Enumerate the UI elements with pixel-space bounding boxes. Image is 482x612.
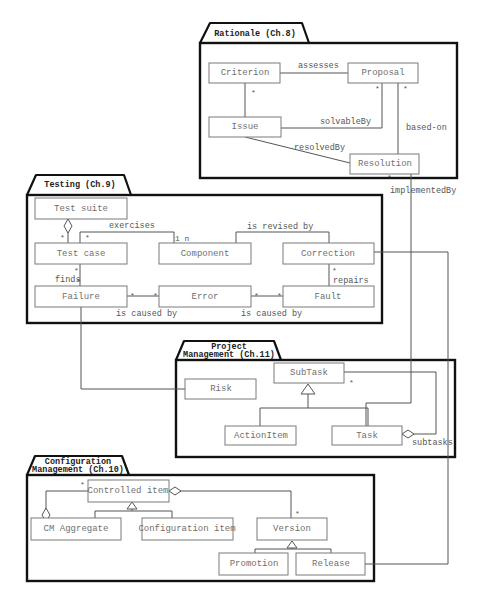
multiplicity: *: [74, 266, 79, 275]
class-name: Failure: [62, 292, 100, 302]
class-risk[interactable]: Risk: [185, 379, 256, 399]
class-name: Task: [356, 431, 378, 441]
generalization-subtask-branch: [260, 408, 368, 426]
multiplicity: *: [349, 378, 354, 387]
class-name: Error: [191, 292, 218, 302]
generalization-version-branch: [255, 549, 331, 553]
label-solvable-by: solvableBy: [320, 117, 371, 127]
generalization-triangle-icon: [287, 541, 297, 548]
class-name: ActionItem: [234, 431, 288, 441]
class-configuration-item[interactable]: Configuration item: [138, 518, 235, 540]
multiplicity: *: [295, 509, 300, 518]
class-name: Component: [181, 249, 230, 259]
label-exercises: exercises: [109, 221, 155, 231]
class-name: Criterion: [221, 68, 270, 78]
class-release[interactable]: Release: [296, 553, 365, 575]
aggregation-diamond-icon: [402, 430, 414, 438]
class-criterion[interactable]: Criterion: [209, 63, 280, 83]
class-task[interactable]: Task: [332, 426, 402, 445]
aggregation-diamond-icon: [169, 487, 181, 495]
multiplicity: *: [403, 84, 408, 93]
aggregation-diamond-icon: [64, 219, 72, 233]
generalization-triangle-icon: [301, 384, 315, 394]
label-subtasks: subtasks: [412, 438, 453, 448]
class-controlled-item[interactable]: Controlled item: [87, 480, 169, 502]
label-is-caused-by: is caused by: [116, 309, 177, 319]
uml-class-diagram: Rationale (Ch.8) Testing (Ch.9) Project …: [0, 0, 482, 612]
class-error[interactable]: Error: [159, 286, 251, 307]
package-title-line2: Management (Ch.10): [32, 465, 124, 475]
label-assesses: assesses: [298, 61, 339, 71]
class-fault[interactable]: Fault: [283, 286, 374, 307]
label-is-revised-by: is revised by: [247, 222, 313, 232]
class-name: Proposal: [361, 68, 404, 78]
class-name: Test suite: [54, 204, 108, 214]
class-resolution[interactable]: Resolution: [350, 154, 419, 174]
multiplicity: *: [387, 173, 392, 182]
generalization-controlled-branch: [95, 511, 172, 518]
class-name: Risk: [210, 384, 232, 394]
multiplicity: *: [130, 291, 135, 300]
label-implemented-by: implementedBy: [390, 186, 456, 196]
package-title: Rationale (Ch.8): [214, 29, 296, 39]
class-name: Correction: [301, 249, 355, 259]
class-name: Fault: [314, 292, 341, 302]
package-title: Testing (Ch.9): [44, 180, 115, 190]
class-test-suite[interactable]: Test suite: [35, 198, 127, 219]
class-name: Configuration item: [138, 524, 235, 534]
multiplicity: *: [153, 291, 158, 300]
assoc-aggregate-controlled: [46, 491, 88, 509]
class-cm-aggregate[interactable]: CM Aggregate: [31, 518, 121, 540]
class-test-case[interactable]: Test case: [35, 243, 127, 264]
class-name: CM Aggregate: [44, 524, 109, 534]
multiplicity: *: [254, 291, 259, 300]
multiplicity: *: [277, 291, 282, 300]
class-name: Version: [273, 524, 311, 534]
class-failure[interactable]: Failure: [35, 286, 127, 307]
class-subtask[interactable]: SubTask: [274, 363, 344, 383]
multiplicity: *: [332, 266, 337, 275]
multiplicity: *: [251, 88, 256, 97]
class-name: Resolution: [358, 159, 412, 169]
class-component[interactable]: Component: [159, 243, 251, 264]
class-name: Release: [312, 559, 350, 569]
class-name: Test case: [57, 249, 106, 259]
label-repairs: repairs: [333, 276, 369, 286]
multiplicity: *: [375, 84, 380, 93]
class-name: Issue: [231, 122, 258, 132]
class-issue[interactable]: Issue: [209, 117, 281, 137]
multiplicity: 1 n: [175, 234, 190, 243]
label-is-caused-by: is caused by: [241, 309, 302, 319]
assoc-failure-risk: [81, 307, 185, 389]
class-proposal[interactable]: Proposal: [348, 63, 418, 83]
assoc-exercises: [80, 232, 174, 243]
multiplicity: *: [76, 277, 81, 286]
label-resolved-by: resolvedBy: [294, 143, 345, 153]
package-title-line2: Management (Ch.11): [183, 350, 275, 360]
assoc-is-revised-by: [236, 232, 329, 243]
class-action-item[interactable]: ActionItem: [225, 426, 296, 445]
generalization-triangle-icon: [127, 502, 137, 509]
class-promotion[interactable]: Promotion: [219, 553, 288, 575]
assoc-controlled-version: [173, 491, 291, 518]
class-correction[interactable]: Correction: [283, 243, 374, 264]
multiplicity: *: [85, 233, 90, 242]
class-name: Promotion: [230, 559, 279, 569]
class-version[interactable]: Version: [257, 518, 327, 540]
label-based-on: based-on: [406, 123, 447, 133]
multiplicity: *: [80, 480, 85, 489]
class-name: Controlled item: [87, 486, 168, 496]
multiplicity: *: [60, 233, 65, 242]
class-name: SubTask: [290, 368, 328, 378]
